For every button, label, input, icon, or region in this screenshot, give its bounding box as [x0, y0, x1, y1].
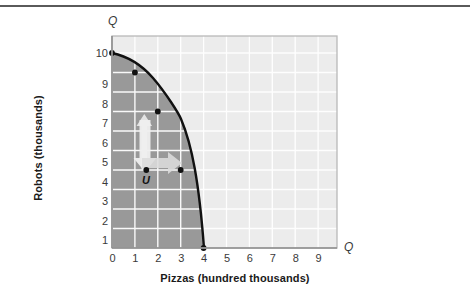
y-tick-label: 10 [88, 47, 108, 59]
y-tick-label: 8 [92, 98, 108, 110]
point-u-label: U [142, 174, 150, 186]
x-tick-label: 1 [131, 252, 140, 264]
y-tick-label: 3 [92, 195, 108, 207]
x-tick-label: 0 [108, 252, 117, 264]
data-point [178, 167, 184, 173]
y-tick-label: 1 [92, 234, 108, 246]
point-u-marker [143, 167, 149, 173]
x-tick-label: 2 [154, 252, 163, 264]
x-tick-label: 9 [314, 252, 323, 264]
x-tick-label: 5 [223, 252, 232, 264]
x-tick-label: 6 [245, 252, 254, 264]
x-tick-label: 3 [177, 252, 186, 264]
y-axis-quantity-symbol: Q [108, 14, 117, 28]
x-tick-label: 8 [291, 252, 300, 264]
x-tick-label: 7 [268, 252, 277, 264]
x-axis-quantity-symbol: Q [344, 240, 353, 254]
y-axis-title: Robots (thousands) [32, 48, 44, 248]
y-tick-label: 4 [92, 176, 108, 188]
x-axis-title: Pizzas (hundred thousands) [0, 272, 470, 284]
x-tick-label: 4 [200, 252, 209, 264]
data-point [132, 70, 138, 76]
y-tick-label: 7 [92, 117, 108, 129]
ppf-chart [0, 0, 470, 292]
y-tick-label: 5 [92, 156, 108, 168]
y-tick-label: 6 [92, 137, 108, 149]
figure-canvas: Pizzas (hundred thousands) Robots (thous… [0, 0, 470, 292]
y-tick-label: 9 [92, 78, 108, 90]
y-tick-label: 2 [92, 215, 108, 227]
data-point [155, 109, 161, 115]
